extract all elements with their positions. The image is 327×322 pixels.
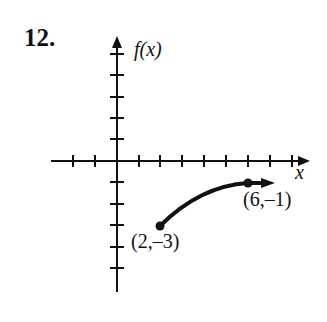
curve-arrow-icon — [261, 178, 275, 188]
axes — [51, 36, 310, 292]
graph: f(x) x (2,–3) (6,–1) — [0, 0, 327, 322]
point-a-label: (2,–3) — [131, 230, 179, 253]
y-axis-arrow-icon — [112, 36, 122, 48]
point-end — [244, 179, 253, 188]
x-axis-label: x — [294, 161, 304, 183]
y-axis-label: f(x) — [134, 38, 162, 61]
point-b-label: (6,–1) — [243, 188, 291, 211]
